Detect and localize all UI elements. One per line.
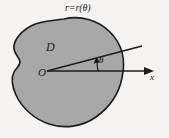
- angle-label-theta: θ: [99, 56, 103, 65]
- polar-region-figure: r=r(θ) D O θ x: [0, 0, 169, 138]
- figure-canvas: [0, 0, 169, 138]
- boundary-curve-label: r=r(θ): [65, 3, 91, 13]
- x-axis-label: x: [150, 73, 154, 82]
- region-d-shape: [12, 18, 123, 127]
- origin-label-o: O: [38, 67, 46, 78]
- region-label-d: D: [46, 41, 55, 53]
